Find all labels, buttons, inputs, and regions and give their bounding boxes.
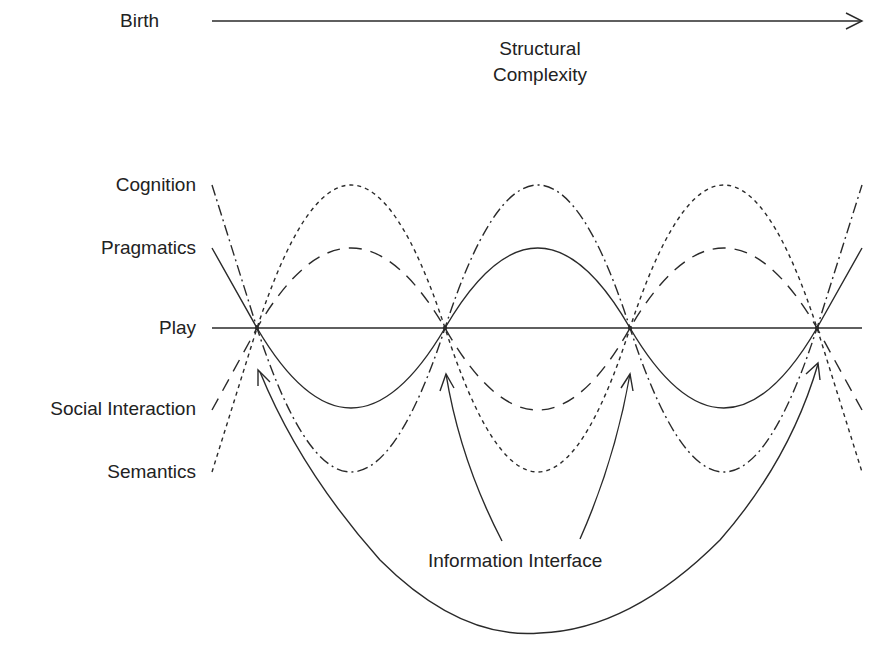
information-interface-outer-arc bbox=[258, 363, 820, 634]
information-interface-inner-arrow-left bbox=[440, 374, 502, 541]
developmental-diagram bbox=[0, 0, 893, 656]
structural-complexity-axis bbox=[212, 13, 862, 29]
information-interface-inner-arrow-right bbox=[580, 374, 633, 539]
social-interaction-curve bbox=[212, 248, 862, 410]
